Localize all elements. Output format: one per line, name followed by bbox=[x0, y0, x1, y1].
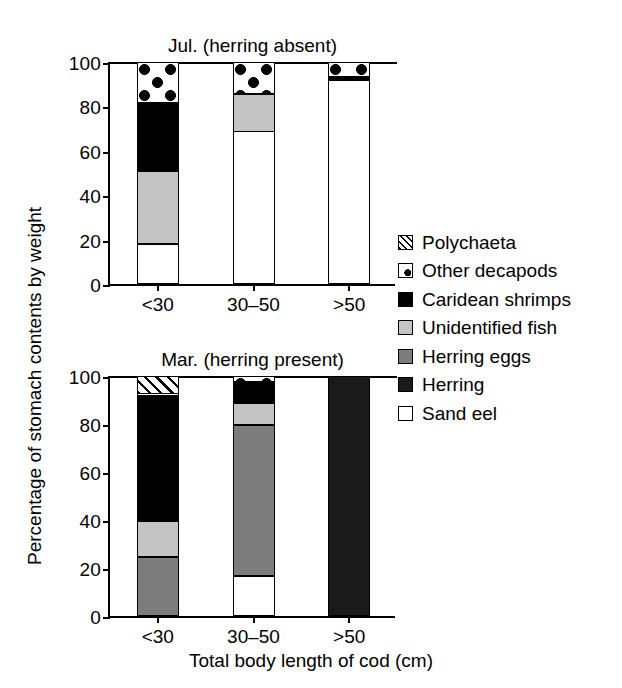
segment-divider bbox=[138, 243, 178, 245]
brick-swatch bbox=[398, 292, 413, 307]
legend-item[interactable]: Herring eggs bbox=[398, 342, 571, 371]
x-tick-label: 30–50 bbox=[227, 626, 280, 648]
segment-divider bbox=[138, 393, 178, 395]
x-tick-label: <30 bbox=[142, 626, 174, 648]
segment-divider bbox=[234, 424, 274, 426]
bar-segment bbox=[234, 132, 274, 284]
stacked-bar[interactable] bbox=[328, 62, 370, 284]
segment-divider bbox=[234, 93, 274, 95]
y-tick-mark bbox=[103, 473, 110, 475]
y-tick-mark bbox=[103, 569, 110, 571]
x-tick-mark bbox=[157, 616, 159, 623]
legend-label: Caridean shrimps bbox=[422, 290, 571, 309]
legend-label: Sand eel bbox=[422, 404, 497, 423]
x-axis-label: Total body length of cod (cm) bbox=[0, 650, 622, 672]
black-swatch bbox=[398, 377, 413, 392]
bar-segment bbox=[138, 557, 178, 616]
legend-item[interactable]: Caridean shrimps bbox=[398, 285, 571, 314]
dot-swatch bbox=[398, 263, 413, 278]
y-tick-mark bbox=[103, 425, 110, 427]
segment-divider bbox=[138, 171, 178, 173]
legend-item[interactable]: Other decapods bbox=[398, 257, 571, 286]
segment-divider bbox=[234, 131, 274, 133]
y-tick-mark bbox=[103, 152, 110, 154]
segment-divider bbox=[234, 381, 274, 383]
legend-item[interactable]: Herring bbox=[398, 371, 571, 400]
x-tick-mark bbox=[253, 616, 255, 623]
x-tick-mark bbox=[348, 616, 350, 623]
legend-label: Herring eggs bbox=[422, 347, 531, 366]
legend: PolychaetaOther decapodsCaridean shrimps… bbox=[398, 228, 571, 428]
bar-segment bbox=[234, 382, 274, 404]
lightgray-swatch bbox=[398, 320, 413, 335]
hatch-swatch bbox=[398, 235, 413, 250]
legend-label: Herring bbox=[422, 375, 484, 394]
legend-item[interactable]: Unidentified fish bbox=[398, 314, 571, 343]
legend-item[interactable]: Sand eel bbox=[398, 399, 571, 428]
stacked-bar[interactable] bbox=[233, 62, 275, 284]
bar-segment bbox=[138, 396, 178, 521]
bar-segment bbox=[329, 377, 369, 616]
bar-segment bbox=[234, 403, 274, 425]
bar-segment bbox=[234, 94, 274, 132]
x-tick-label: 30–50 bbox=[227, 294, 280, 316]
plot-area-jul: Jul. (herring absent) 020406080100 <3030… bbox=[108, 64, 395, 286]
x-tick-mark bbox=[157, 284, 159, 291]
white-swatch bbox=[398, 406, 413, 421]
segment-divider bbox=[138, 556, 178, 558]
y-tick-mark bbox=[103, 521, 110, 523]
y-tick-mark bbox=[103, 196, 110, 198]
bar-segment bbox=[138, 103, 178, 172]
legend-label: Other decapods bbox=[422, 261, 557, 280]
segment-divider bbox=[138, 102, 178, 104]
bar-segment bbox=[138, 377, 178, 394]
x-tick-label: >50 bbox=[333, 294, 365, 316]
bar-segment bbox=[234, 63, 274, 94]
midgray-swatch bbox=[398, 349, 413, 364]
plot-area-mar: Mar. (herring present) 020406080100 <303… bbox=[108, 378, 395, 618]
y-tick-mark bbox=[103, 63, 110, 65]
x-tick-label: <30 bbox=[142, 294, 174, 316]
segment-divider bbox=[138, 395, 178, 397]
segment-divider bbox=[234, 575, 274, 577]
stacked-bar[interactable] bbox=[328, 376, 370, 616]
segment-divider bbox=[329, 76, 369, 78]
panel-title-jul: Jul. (herring absent) bbox=[110, 35, 395, 57]
bar-segment bbox=[234, 425, 274, 576]
y-tick-mark bbox=[103, 285, 110, 287]
bar-segment bbox=[138, 63, 178, 103]
bar-segment bbox=[138, 244, 178, 284]
x-tick-mark bbox=[253, 284, 255, 291]
legend-label: Polychaeta bbox=[422, 233, 516, 252]
stacked-bar[interactable] bbox=[233, 376, 275, 616]
segment-divider bbox=[138, 520, 178, 522]
x-tick-label: >50 bbox=[333, 626, 365, 648]
bar-segment bbox=[138, 172, 178, 244]
y-tick-mark bbox=[103, 241, 110, 243]
segment-divider bbox=[329, 80, 369, 82]
y-tick-mark bbox=[103, 617, 110, 619]
figure-stomach-contents: Percentage of stomach contents by weight… bbox=[0, 0, 622, 688]
x-tick-mark bbox=[348, 284, 350, 291]
y-tick-mark bbox=[103, 377, 110, 379]
stacked-bar[interactable] bbox=[137, 376, 179, 616]
y-tick-mark bbox=[103, 107, 110, 109]
legend-label: Unidentified fish bbox=[422, 318, 557, 337]
bar-segment bbox=[234, 576, 274, 616]
bar-segment bbox=[329, 81, 369, 284]
bar-segment bbox=[329, 63, 369, 77]
stacked-bar[interactable] bbox=[137, 62, 179, 284]
bar-segment bbox=[138, 521, 178, 557]
legend-item[interactable]: Polychaeta bbox=[398, 228, 571, 257]
panel-title-mar: Mar. (herring present) bbox=[110, 349, 395, 371]
segment-divider bbox=[234, 402, 274, 404]
